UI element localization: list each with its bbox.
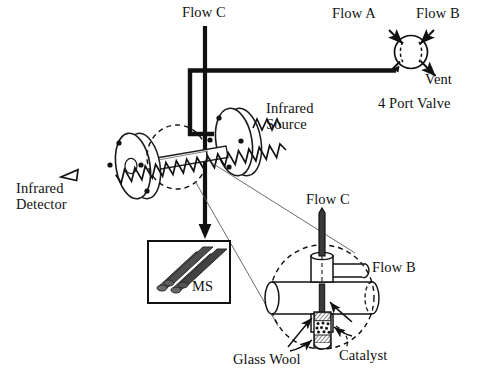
catalyst-bed-icon xyxy=(314,312,331,349)
ir-cell-right-flange xyxy=(207,106,266,179)
label-infrared-source: Infrared Source xyxy=(266,100,314,132)
label-vent: Vent xyxy=(425,72,452,88)
label-infrared-source-line1: Infrared xyxy=(266,100,314,116)
reactor-detail xyxy=(265,208,379,351)
infrared-cell xyxy=(61,106,287,202)
diagram-vector-layer xyxy=(0,0,480,381)
diagram-canvas: Flow C Flow A Flow B Vent 4 Port Valve I… xyxy=(0,0,480,381)
label-flow-c-top: Flow C xyxy=(182,5,226,21)
label-four-port-valve: 4 Port Valve xyxy=(378,96,451,112)
label-flow-b-detail: Flow B xyxy=(372,260,416,276)
mass-spectrometer-box xyxy=(148,241,230,303)
label-ms: MS xyxy=(192,279,213,295)
glass-wool-icon xyxy=(315,313,331,321)
label-flow-b-top: Flow B xyxy=(416,6,460,22)
label-infrared-source-line2: Source xyxy=(266,116,314,132)
label-flow-c-detail: Flow C xyxy=(306,192,350,208)
label-catalyst: Catalyst xyxy=(339,348,387,364)
label-infrared-detector: Infrared Detector xyxy=(16,180,67,212)
label-infrared-detector-line2: Detector xyxy=(16,196,67,212)
label-infrared-detector-line1: Infrared xyxy=(16,180,67,196)
label-flow-a: Flow A xyxy=(332,6,376,22)
label-glass-wool: Glass Wool xyxy=(233,352,301,368)
